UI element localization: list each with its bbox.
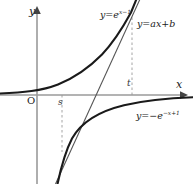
equation-label-upper-curve: y=ex−1 [100,10,131,20]
tangent-line [56,0,141,184]
x-axis-label: x [176,79,182,90]
equation-label-lower-curve: y=−e−x+1 [136,111,180,121]
tangent-point-label-t: t [127,79,131,88]
equation-upper-base: y=e [100,9,119,20]
equation-upper-exponent: x−1 [119,9,131,15]
y-axis-label: y [29,6,35,17]
tangent-point-label-s: s [58,98,63,107]
equation-label-tangent-line: y=ax+b [137,19,175,29]
origin-label: O [27,96,35,106]
equation-lower-base: y=−e [136,110,163,121]
math-figure: y x O s t y=ex−1 y=ax+b y=−e−x+1 [0,0,193,184]
equation-lower-exponent: −x+1 [163,110,180,116]
equation-line-text: y=ax+b [137,18,175,29]
